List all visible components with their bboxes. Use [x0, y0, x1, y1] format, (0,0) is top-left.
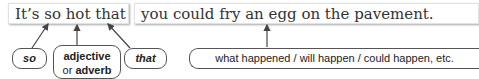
label-adverb-text: adverb — [75, 64, 111, 76]
arrow-so — [32, 24, 48, 48]
label-so: so — [12, 48, 47, 69]
label-result: what happened / will happen / could happ… — [189, 48, 479, 69]
label-result-text: what happened / will happen / could happ… — [215, 52, 454, 64]
label-so-text: so — [23, 52, 36, 64]
label-adjective-or-adverb: adjective or adverb — [53, 45, 121, 79]
label-adjective-text: adjective — [63, 50, 110, 62]
label-that: that — [124, 48, 167, 69]
label-that-text: that — [135, 52, 155, 64]
label-or-text: or — [63, 64, 73, 76]
